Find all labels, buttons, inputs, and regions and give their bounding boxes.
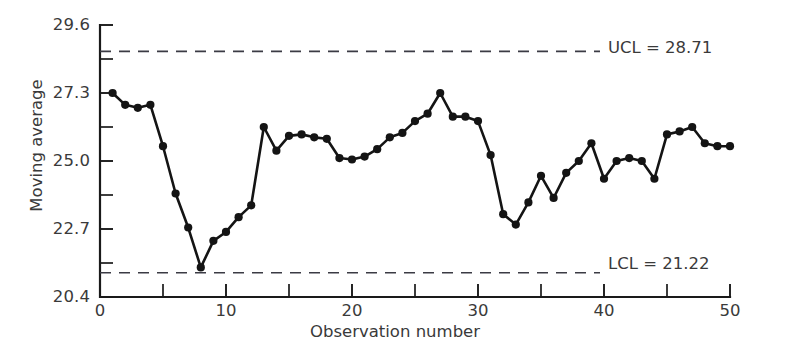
data-point [524,198,532,206]
data-point [272,147,280,155]
data-point [688,123,696,131]
y-tick-label: 27.3 [8,83,90,102]
data-point [663,130,671,138]
data-point [285,132,293,140]
data-point [461,113,469,121]
data-point [197,263,205,271]
data-point [600,175,608,183]
x-tick-label: 10 [196,301,256,320]
data-point [310,133,318,141]
moving-average-series [109,89,735,272]
x-tick-label: 30 [448,301,508,320]
data-point [650,175,658,183]
data-point [499,210,507,218]
y-tick-label: 29.6 [8,15,90,34]
data-point [625,154,633,162]
data-point [222,228,230,236]
data-point [159,142,167,150]
data-point [587,139,595,147]
data-point [436,89,444,97]
data-point [575,157,583,165]
data-point [424,110,432,118]
data-point [260,123,268,131]
data-point [411,117,419,125]
data-point [676,127,684,135]
data-point [550,194,558,202]
ucl-label: UCL = 28.71 [608,38,712,57]
data-point [121,101,129,109]
data-point [247,201,255,209]
data-point [512,220,520,228]
x-tick-label: 0 [70,301,130,320]
data-point [235,213,243,221]
data-point [562,169,570,177]
y-tick-label: 22.7 [8,219,90,238]
data-point [348,155,356,163]
data-point [398,129,406,137]
data-point [172,189,180,197]
x-axis-title: Observation number [0,322,790,341]
data-point [613,157,621,165]
data-point [537,172,545,180]
data-point [109,89,117,97]
lcl-label: LCL = 21.22 [608,254,709,273]
x-tick-label: 20 [322,301,382,320]
data-point [209,237,217,245]
y-axis-title: Moving average [27,66,46,226]
data-point [323,135,331,143]
data-point [449,113,457,121]
x-tick-label: 40 [574,301,634,320]
y-tick-label: 25.0 [8,151,90,170]
data-point [386,133,394,141]
data-point [335,154,343,162]
data-point [713,142,721,150]
data-point [134,104,142,112]
data-point [361,152,369,160]
data-point [487,151,495,159]
control-chart: 20.422.725.027.329.6 01020304050 Moving … [0,0,790,351]
data-point [701,139,709,147]
data-point [146,101,154,109]
data-point [638,157,646,165]
data-point [298,130,306,138]
x-tick-label: 50 [700,301,760,320]
data-point [373,145,381,153]
data-point [726,142,734,150]
data-point [474,117,482,125]
data-point [184,223,192,231]
